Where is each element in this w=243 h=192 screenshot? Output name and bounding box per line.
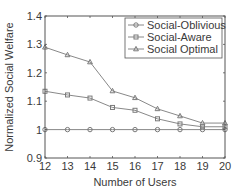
series-social-oblivious — [43, 127, 227, 131]
x-tick-label: 17 — [151, 160, 163, 172]
y-tick-label: 1.1 — [27, 95, 42, 107]
x-tick-label: 13 — [61, 160, 73, 172]
x-tick-label: 16 — [129, 160, 141, 172]
y-tick-label: 1.2 — [27, 67, 42, 79]
series-line — [45, 47, 225, 123]
legend: Social-ObliviousSocial-AwareSocial Optim… — [125, 18, 226, 58]
x-tick-label: 18 — [174, 160, 186, 172]
legend-label: Social Optimal — [147, 43, 218, 55]
y-tick-label: 1.4 — [27, 10, 42, 22]
x-tick-label: 20 — [219, 160, 231, 172]
y-tick-label: 1 — [36, 124, 42, 136]
x-tick-label: 19 — [196, 160, 208, 172]
legend-label: Social-Aware — [147, 31, 212, 43]
y-tick-label: 0.9 — [27, 152, 42, 164]
y-axis-title: Normalized Social Welfare — [3, 22, 15, 151]
x-tick-label: 14 — [84, 160, 96, 172]
x-tick-label: 15 — [106, 160, 118, 172]
y-tick-label: 1.3 — [27, 38, 42, 50]
line-chart: 121314151617181920 0.911.11.21.31.4 Numb… — [0, 0, 243, 192]
legend-label: Social-Oblivious — [147, 19, 226, 31]
x-axis-title: Number of Users — [93, 176, 177, 188]
